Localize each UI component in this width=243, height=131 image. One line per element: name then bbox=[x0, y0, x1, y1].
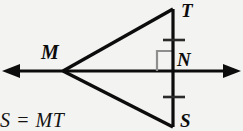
vertex-label-M: M bbox=[41, 42, 59, 62]
geometry-figure: M T N S S = MT bbox=[0, 0, 243, 131]
right-angle-mark bbox=[157, 51, 173, 71]
vertex-label-T: T bbox=[181, 1, 193, 20]
left-arrowhead-icon bbox=[2, 64, 20, 78]
segment-MS bbox=[63, 71, 173, 127]
vertex-label-S: S bbox=[180, 111, 191, 130]
double-headed-horizontal-line bbox=[2, 64, 241, 78]
vertex-label-N: N bbox=[177, 50, 191, 69]
right-arrowhead-icon bbox=[223, 64, 241, 78]
figure-caption: S = MT bbox=[0, 109, 64, 131]
